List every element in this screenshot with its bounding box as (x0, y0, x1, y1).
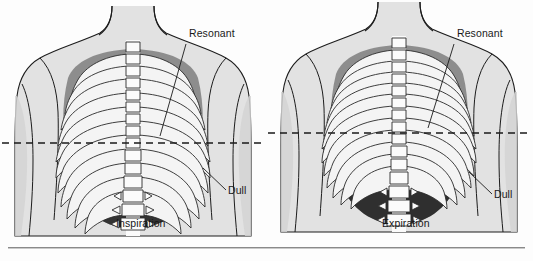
chest-percussion-illustration (0, 0, 533, 261)
bottom-divider-highlight (8, 248, 525, 249)
dull-label-expiration: Dull (494, 188, 513, 200)
resonant-label-expiration: Resonant (457, 27, 503, 39)
dull-label-inspiration: Dull (228, 184, 247, 196)
caption-expiration: Expiration (382, 217, 430, 229)
caption-inspiration: Inspiration (116, 217, 166, 229)
panel-inspiration (2, 6, 262, 236)
figure-root: Resonant Dull Inspiration Resonant Dull … (0, 0, 533, 261)
resonant-label-inspiration: Resonant (189, 27, 235, 39)
